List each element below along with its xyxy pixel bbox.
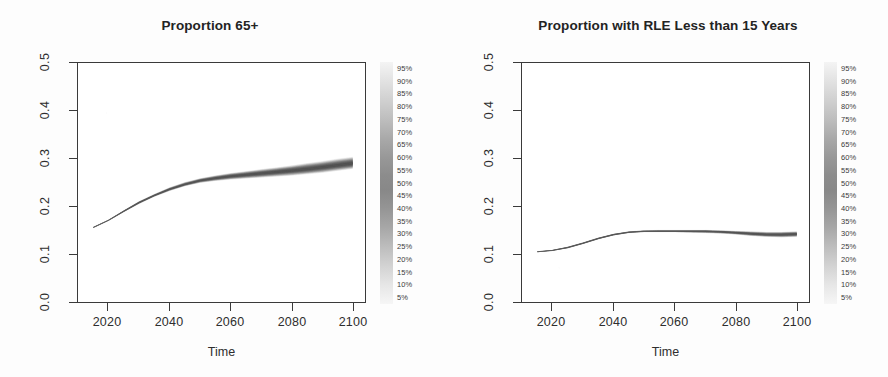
legend-gradient bbox=[380, 62, 393, 304]
chart-panel-proportion-65-plus: Proportion 65+ 0.0 0.1 0.2 0.3 0.4 0.5 2… bbox=[0, 0, 444, 377]
y-tick-mark bbox=[69, 62, 77, 63]
x-axis-label-2080: 2080 bbox=[714, 315, 758, 329]
y-tick-mark bbox=[69, 110, 77, 111]
legend-label: 40% bbox=[397, 204, 412, 213]
x-axis-label-2040: 2040 bbox=[147, 315, 191, 329]
x-axis-label-2020: 2020 bbox=[85, 315, 129, 329]
y-axis-label-4: 0.4 bbox=[38, 93, 52, 127]
legend-label: 75% bbox=[397, 115, 412, 124]
x-tick-mark bbox=[797, 303, 798, 311]
legend-label: 90% bbox=[841, 77, 856, 86]
legend-label: 60% bbox=[397, 153, 412, 162]
legend-colorbar-left: 95%90%85%80%75%70%65%60%55%50%45%40%35%3… bbox=[380, 62, 393, 304]
legend-label: 80% bbox=[841, 102, 856, 111]
legend-label: 10% bbox=[841, 280, 856, 289]
y-axis-label-0: 0.0 bbox=[482, 285, 496, 319]
x-axis-label-2060: 2060 bbox=[652, 315, 696, 329]
x-axis-label-2100: 2100 bbox=[775, 315, 819, 329]
legend-label: 80% bbox=[397, 102, 412, 111]
legend-label: 95% bbox=[397, 64, 412, 73]
y-tick-mark bbox=[513, 158, 521, 159]
x-axis-label-2040: 2040 bbox=[591, 315, 635, 329]
legend-label: 40% bbox=[841, 204, 856, 213]
x-tick-mark bbox=[107, 303, 108, 311]
y-axis-label-2: 0.2 bbox=[38, 189, 52, 223]
y-tick-mark bbox=[513, 110, 521, 111]
legend-label: 55% bbox=[841, 166, 856, 175]
legend-gradient bbox=[824, 62, 837, 304]
x-tick-mark bbox=[169, 303, 170, 311]
x-tick-mark bbox=[551, 303, 552, 311]
x-axis-title-left: Time bbox=[77, 345, 366, 359]
legend-label: 10% bbox=[397, 280, 412, 289]
legend-label: 45% bbox=[397, 191, 412, 200]
plot-area-left bbox=[77, 62, 366, 303]
x-axis-label-2080: 2080 bbox=[270, 315, 314, 329]
y-axis-label-2: 0.2 bbox=[482, 189, 496, 223]
x-tick-mark bbox=[230, 303, 231, 311]
y-tick-mark bbox=[513, 302, 521, 303]
y-tick-mark bbox=[69, 254, 77, 255]
legend-label: 85% bbox=[841, 89, 856, 98]
x-axis-title-right: Time bbox=[521, 345, 810, 359]
legend-label: 65% bbox=[397, 140, 412, 149]
legend-label: 25% bbox=[841, 242, 856, 251]
x-tick-mark bbox=[674, 303, 675, 311]
median-line bbox=[537, 231, 797, 252]
y-axis-label-5: 0.5 bbox=[38, 45, 52, 79]
legend-label: 75% bbox=[841, 115, 856, 124]
legend-label: 5% bbox=[841, 293, 852, 302]
legend-label: 65% bbox=[841, 140, 856, 149]
legend-label: 60% bbox=[841, 153, 856, 162]
x-axis-label-2060: 2060 bbox=[208, 315, 252, 329]
legend-label: 15% bbox=[841, 268, 856, 277]
legend-label: 55% bbox=[397, 166, 412, 175]
legend-label: 20% bbox=[841, 255, 856, 264]
x-tick-mark bbox=[292, 303, 293, 311]
x-tick-mark bbox=[353, 303, 354, 311]
legend-label: 30% bbox=[397, 229, 412, 238]
y-tick-mark bbox=[513, 62, 521, 63]
legend-label: 50% bbox=[397, 179, 412, 188]
y-axis-label-1: 0.1 bbox=[38, 237, 52, 271]
legend-label: 20% bbox=[397, 255, 412, 264]
legend-label: 50% bbox=[841, 179, 856, 188]
fan-chart-band-left bbox=[78, 63, 365, 302]
legend-label: 70% bbox=[397, 128, 412, 137]
y-axis-label-5: 0.5 bbox=[482, 45, 496, 79]
legend-colorbar-right: 95%90%85%80%75%70%65%60%55%50%45%40%35%3… bbox=[824, 62, 837, 304]
legend-label: 25% bbox=[397, 242, 412, 251]
chart-title-right: Proportion with RLE Less than 15 Years bbox=[458, 18, 878, 33]
y-tick-mark bbox=[513, 254, 521, 255]
legend-label: 85% bbox=[397, 89, 412, 98]
x-axis-label-2100: 2100 bbox=[331, 315, 375, 329]
legend-label: 45% bbox=[841, 191, 856, 200]
chart-panel-rle-less-than-15: Proportion with RLE Less than 15 Years 0… bbox=[444, 0, 888, 377]
y-axis-label-0: 0.0 bbox=[38, 285, 52, 319]
y-tick-mark bbox=[513, 206, 521, 207]
legend-label: 5% bbox=[397, 293, 408, 302]
x-axis-label-2020: 2020 bbox=[529, 315, 573, 329]
x-tick-mark bbox=[613, 303, 614, 311]
legend-label: 35% bbox=[841, 217, 856, 226]
legend-label: 70% bbox=[841, 128, 856, 137]
plot-area-right bbox=[521, 62, 810, 303]
x-tick-mark bbox=[736, 303, 737, 311]
y-axis-label-4: 0.4 bbox=[482, 93, 496, 127]
legend-label: 15% bbox=[397, 268, 412, 277]
chart-title-left: Proportion 65+ bbox=[0, 18, 420, 33]
legend-label: 30% bbox=[841, 229, 856, 238]
y-axis-label-3: 0.3 bbox=[482, 141, 496, 175]
fan-chart-band-right bbox=[522, 63, 809, 302]
y-tick-mark bbox=[69, 206, 77, 207]
y-axis-label-1: 0.1 bbox=[482, 237, 496, 271]
y-tick-mark bbox=[69, 302, 77, 303]
legend-label: 95% bbox=[841, 64, 856, 73]
legend-label: 90% bbox=[397, 77, 412, 86]
y-axis-label-3: 0.3 bbox=[38, 141, 52, 175]
y-tick-mark bbox=[69, 158, 77, 159]
figure-canvas: Proportion 65+ 0.0 0.1 0.2 0.3 0.4 0.5 2… bbox=[0, 0, 888, 377]
legend-label: 35% bbox=[397, 217, 412, 226]
